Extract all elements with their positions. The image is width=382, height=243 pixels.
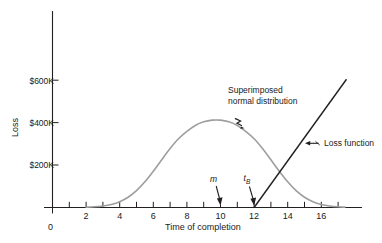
x-tick-label-8: 8 bbox=[177, 211, 197, 222]
loss-function-arrow-icon bbox=[305, 141, 319, 146]
y-tick-label-400k: $400K bbox=[14, 118, 54, 128]
x-tick-label-4: 4 bbox=[110, 211, 130, 222]
normal-distribution-curve bbox=[86, 120, 345, 207]
x-tick-label-2: 2 bbox=[76, 211, 96, 222]
tb-marker-subscript: B bbox=[246, 178, 250, 185]
mean-marker-arrow-icon bbox=[216, 186, 222, 205]
loss-function-annotation-label: Loss function bbox=[324, 138, 374, 148]
x-tick-label-16: 16 bbox=[311, 211, 331, 222]
mean-marker-label: m bbox=[210, 174, 217, 184]
tb-marker-arrow-icon bbox=[249, 187, 256, 206]
y-axis-title: Loss bbox=[10, 118, 20, 137]
chart-plot-area bbox=[0, 0, 382, 243]
x-axis-origin-label: 0 bbox=[48, 222, 53, 232]
normal-distribution-annotation-line1: Superimposed bbox=[228, 85, 283, 95]
x-axis-title: Time of completion bbox=[165, 222, 241, 232]
chart-figure: $600K $400K $200K Loss 2 4 6 8 10 12 14 … bbox=[0, 0, 382, 243]
x-tick-label-12: 12 bbox=[244, 211, 264, 222]
y-tick-label-200k: $200K bbox=[14, 160, 54, 170]
tb-marker-label: tB bbox=[244, 173, 251, 185]
normal-distribution-annotation-line2: normal distribution bbox=[228, 96, 297, 106]
x-tick-label-14: 14 bbox=[278, 211, 298, 222]
x-tick-label-10: 10 bbox=[211, 211, 231, 222]
y-tick-label-600k: $600K bbox=[14, 76, 54, 86]
x-tick-label-6: 6 bbox=[143, 211, 163, 222]
